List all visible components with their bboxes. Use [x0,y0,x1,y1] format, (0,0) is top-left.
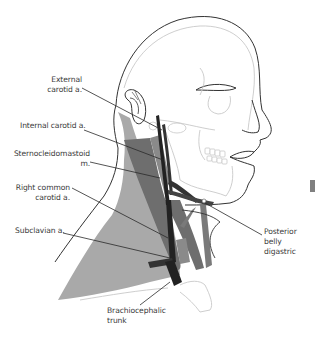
neck-anatomy-illustration [0,0,315,340]
label-brachiocephalic: Brachiocephalic trunk [107,306,166,326]
head-outline [116,16,271,152]
label-right-common-carotid: Right common carotid a. [10,183,70,203]
label-sternocleidomastoid: Sternocleidomastoid m. [8,149,90,169]
label-internal-carotid: Internal carotid a. [20,121,86,131]
edge-marker [310,180,315,192]
label-posterior-belly-digastric: Posterior belly digastric [264,227,297,257]
label-external-carotid: External carotid a. [20,75,82,95]
label-subclavian: Subclavian a. [15,226,65,236]
